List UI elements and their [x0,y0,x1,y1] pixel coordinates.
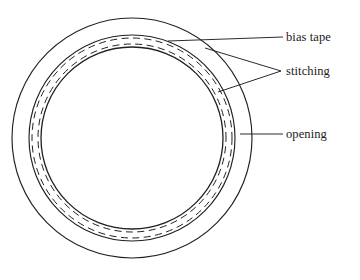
diagram-canvas: bias tape stitching opening [0,0,360,280]
leader-stitching-inner [218,71,281,92]
outer-fabric-edge-circle [12,18,252,258]
leader-lines [168,37,283,134]
bias-tape-outer-edge-circle [29,35,235,241]
label-stitching: stitching [286,65,330,78]
label-opening: opening [286,128,327,141]
label-bias-tape: bias tape [286,31,331,44]
leader-bias-tape [168,37,283,41]
stitching-inner-circle [38,44,226,232]
leader-stitching-outer [205,48,281,71]
bias-tape-inner-edge-circle [41,47,223,229]
stitching-outer-circle [32,38,232,238]
fabric-rings [12,18,252,258]
